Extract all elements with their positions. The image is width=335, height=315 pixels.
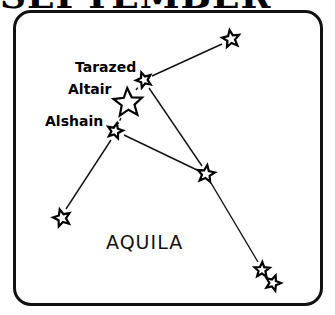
star-icon-lower-right-a (255, 262, 270, 277)
star-icon-tarazed (136, 73, 151, 88)
constellation-name: AQUILA (106, 231, 183, 253)
label-alshain: Alshain (45, 113, 103, 129)
star-icon-altair (114, 88, 143, 116)
star-icon-center-right (198, 165, 215, 182)
star-icon-lower-right-b (266, 275, 281, 290)
star-icon-lower-left (53, 209, 70, 226)
constellation-diagram (0, 0, 335, 315)
star-icon-alshain (108, 123, 123, 138)
label-tarazed: Tarazed (75, 59, 136, 75)
constellation-lines (66, 44, 258, 262)
label-altair: Altair (68, 81, 111, 97)
star-icon-upper-right (222, 30, 239, 47)
